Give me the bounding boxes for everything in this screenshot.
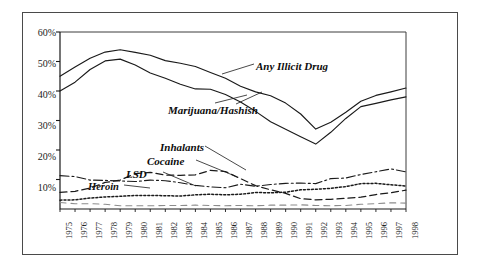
x-tick-label: 1981 bbox=[154, 222, 164, 239]
x-tick-label: 1993 bbox=[334, 222, 344, 239]
x-tick-label: 1978 bbox=[109, 222, 119, 239]
chart-figure: 60% 50% 40% 30% 20% 10% Any Illicit Drug… bbox=[0, 0, 480, 276]
x-tick-label: 1994 bbox=[349, 222, 359, 239]
y-tick-label: 10% bbox=[22, 182, 56, 193]
x-tick-label: 1987 bbox=[244, 222, 254, 239]
y-tick-label: 20% bbox=[22, 151, 56, 162]
x-tick-label: 1991 bbox=[304, 222, 314, 239]
x-tick-label: 1983 bbox=[184, 222, 194, 239]
series-line-any-illicit-drug bbox=[60, 50, 406, 129]
x-tick-label: 1984 bbox=[199, 222, 209, 239]
x-tick-label: 1998 bbox=[410, 222, 420, 239]
x-tick-label: 1996 bbox=[379, 222, 389, 239]
x-tick-label: 1977 bbox=[94, 222, 104, 239]
series-label-cocaine: Cocaine bbox=[147, 155, 184, 167]
x-tick-label: 1989 bbox=[274, 222, 284, 239]
series-label-any-illicit-drug: Any Illicit Drug bbox=[256, 60, 328, 72]
series-label-lsd: LSD bbox=[126, 168, 147, 180]
x-tick-label: 1992 bbox=[319, 222, 329, 239]
x-tick-label: 1995 bbox=[364, 222, 374, 239]
x-tick-label: 1985 bbox=[214, 222, 224, 239]
x-tick-label: 1990 bbox=[289, 222, 299, 239]
y-tick-label: 40% bbox=[22, 89, 56, 100]
x-tick-label: 1976 bbox=[79, 222, 89, 239]
series-label-heroin: Heroin bbox=[88, 181, 119, 192]
x-tick-label: 1979 bbox=[124, 222, 134, 239]
x-tick-label: 1980 bbox=[139, 222, 149, 239]
series-line-heroin bbox=[60, 203, 406, 206]
series-label-marijuana-hashish: Marijuana/Hashish bbox=[168, 104, 258, 116]
x-tick-label: 1988 bbox=[259, 222, 269, 239]
series-label-inhalants: Inhalants bbox=[160, 141, 204, 153]
x-tick-label: 1997 bbox=[394, 222, 404, 239]
x-tick-label: 1975 bbox=[64, 222, 74, 239]
y-tick-label: 60% bbox=[22, 27, 56, 38]
y-tick-label: 50% bbox=[22, 58, 56, 69]
x-tick-label: 1986 bbox=[229, 222, 239, 239]
x-tick-label: 1982 bbox=[169, 222, 179, 239]
y-tick-label: 30% bbox=[22, 120, 56, 131]
series-line-marijuana-hashish bbox=[60, 59, 406, 144]
